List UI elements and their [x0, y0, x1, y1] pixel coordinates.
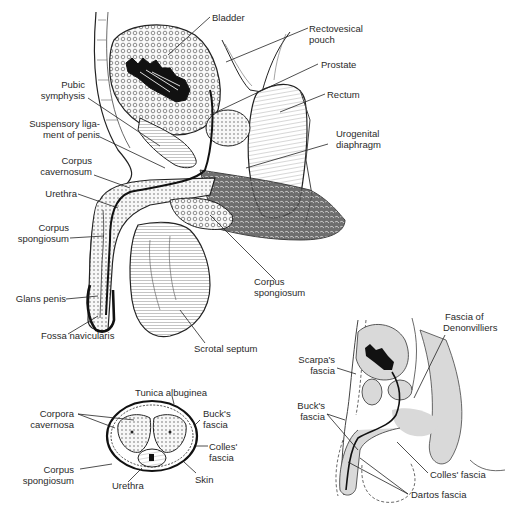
label-bucks-fascia-cross-1: Buck's: [203, 408, 231, 419]
label-suspensory-ligament-2: ment of penis: [43, 129, 100, 140]
label-rectovesical-pouch-1: Rectovesical: [309, 23, 363, 34]
label-corpus-spongiosum-left-1: Corpus: [38, 222, 69, 233]
label-corpora-cavernosa-1: Corpora: [40, 408, 74, 419]
label-corpus-cavernosum-2: cavernosum: [40, 166, 92, 177]
label-fascia-denonvilliers-2: Denonvilliers: [443, 322, 497, 333]
label-glans-penis: Glans penis: [16, 293, 66, 304]
label-corpus-spongiosum-right-2: spongiosum: [254, 287, 305, 298]
label-fascia-denonvilliers-1: Fascia of: [445, 311, 484, 322]
label-corpus-spongiosum-right-1: Corpus: [254, 276, 285, 287]
label-fossa-navicularis: Fossa navicularis: [41, 330, 114, 341]
label-corpus-spongiosum-cross-2: spongiosum: [23, 475, 74, 486]
label-scarpas-fascia-1: Scarpa's: [298, 354, 335, 365]
label-bucks-fascia-diagram-1: Buck's: [297, 400, 325, 411]
label-urogenital-diaphragm-2: diaphragm: [336, 139, 381, 150]
label-bucks-fascia-diagram-2: fascia: [300, 411, 325, 422]
label-pubic-symphysis-1: Pubic: [61, 79, 85, 90]
label-pubic-symphysis-2: symphysis: [41, 90, 85, 101]
label-colles-fascia-diagram: Colles' fascia: [430, 469, 486, 480]
label-urethra-cross: Urethra: [112, 480, 144, 491]
bladder: [110, 25, 221, 135]
label-colles-fascia-cross-1: Colles': [209, 441, 237, 452]
sagittal-section-drawing: [0, 0, 510, 509]
label-skin: Skin: [195, 474, 213, 485]
label-scarpas-fascia-2: fascia: [310, 365, 335, 376]
label-urethra: Urethra: [45, 188, 77, 199]
label-bucks-fascia-cross-2: fascia: [203, 419, 228, 430]
label-corpus-spongiosum-left-2: spongiosum: [18, 233, 69, 244]
label-scrotal-septum: Scrotal septum: [194, 343, 257, 354]
label-tunica-albuginea: Tunica albuginea: [135, 387, 207, 398]
rectovesical-pouch: [222, 32, 290, 92]
label-prostate: Prostate: [321, 59, 356, 70]
label-suspensory-ligament-1: Suspensory liga-: [29, 118, 100, 129]
label-rectovesical-pouch-2: pouch: [309, 34, 335, 45]
label-colles-fascia-cross-2: fascia: [209, 452, 234, 463]
scrotum: [130, 222, 210, 336]
label-corpus-spongiosum-cross-1: Corpus: [43, 464, 74, 475]
label-corpus-cavernosum-1: Corpus: [61, 155, 92, 166]
label-bladder: Bladder: [212, 12, 245, 23]
label-rectum: Rectum: [327, 89, 360, 100]
label-corpora-cavernosa-2: cavernosa: [30, 419, 74, 430]
label-dartos-fascia: Dartos fascia: [411, 489, 466, 500]
label-urogenital-diaphragm-1: Urogenital: [336, 128, 379, 139]
